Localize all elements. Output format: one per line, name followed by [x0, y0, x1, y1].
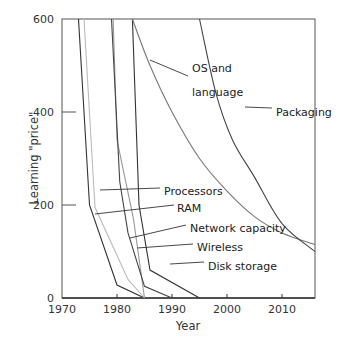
series-line-packaging	[200, 19, 316, 252]
annotation-ram: RAM	[177, 202, 201, 215]
leader-line-os-and-language	[150, 60, 188, 76]
leader-line-ram	[95, 205, 174, 214]
annotation-network-capacity: Network capacity	[190, 222, 286, 235]
x-tick-label: 1980	[103, 303, 131, 316]
annotation-os-and-language: OS and	[192, 62, 232, 75]
x-tick-label: 1990	[158, 303, 186, 316]
leader-line-disk-storage	[170, 262, 204, 264]
leader-line-processors	[100, 188, 160, 190]
plot-border	[62, 19, 315, 298]
annotation-processors: Processors	[164, 185, 223, 198]
annotation-wireless: Wireless	[197, 241, 243, 254]
x-axis-title: Year	[175, 319, 201, 333]
annotation-packaging: Packaging	[276, 106, 332, 119]
series-group	[79, 19, 316, 298]
y-tick-label: 0	[47, 292, 54, 305]
x-tick-label: 2000	[213, 303, 241, 316]
leader-line-packaging	[245, 107, 272, 108]
learning-price-chart: 197019801990200020100200400600 OS andlan…	[0, 0, 353, 343]
series-line-disk-storage	[132, 19, 199, 298]
y-axis-title: Learning "price"	[27, 112, 41, 205]
series-line-os-and-language	[132, 19, 315, 245]
plot-frame	[62, 19, 315, 298]
annotation-os-and-language-line2: language	[192, 86, 243, 99]
y-tick-label: 600	[33, 13, 54, 26]
annotation-disk-storage: Disk storage	[208, 260, 277, 273]
leader-line-network-capacity	[130, 225, 186, 238]
x-tick-label: 2010	[268, 303, 296, 316]
